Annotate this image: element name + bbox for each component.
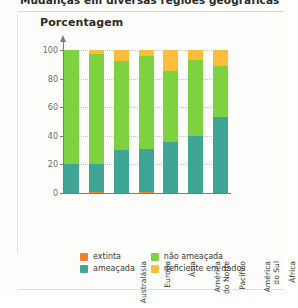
bar-segment <box>163 71 178 141</box>
bar-segment <box>188 50 203 60</box>
bar-segment <box>139 149 154 192</box>
x-axis-label-1: Australásia <box>140 261 149 308</box>
bar-segment <box>114 50 129 61</box>
x-axis-label-5: Pacífico <box>239 261 248 308</box>
legend-swatch <box>80 253 88 261</box>
legend-swatch <box>80 265 88 273</box>
legend-item[interactable]: ameaçada <box>80 264 135 273</box>
y-tick-label: 80 <box>48 74 58 83</box>
bar-segment <box>114 61 129 150</box>
x-axis-label-4: América do Norte <box>214 261 231 308</box>
legend-label: extinta <box>93 252 121 261</box>
y-axis-label: Porcentagem <box>40 16 123 29</box>
y-axis-arrow-icon <box>60 35 66 42</box>
bar-segment <box>213 50 228 66</box>
bar-2[interactable] <box>89 50 104 193</box>
bar-3[interactable] <box>114 50 129 193</box>
y-tick-label: 0 <box>53 189 58 198</box>
figure-title-text: Mudanças em diversas regiões geográficas <box>20 0 279 6</box>
bar-segment <box>89 54 104 164</box>
legend-swatch <box>151 265 159 273</box>
plot-area: 020406080100 <box>64 50 228 193</box>
bar-segment <box>114 150 129 193</box>
bar-segment <box>64 164 79 193</box>
bar-segment <box>188 136 203 193</box>
y-tick-mark <box>60 193 64 194</box>
legend-label: deficiente em dados <box>164 264 246 273</box>
x-axis-line <box>63 193 231 194</box>
bar-segment <box>89 192 104 193</box>
bar-segment <box>89 164 104 191</box>
legend-item[interactable]: extinta <box>80 252 135 261</box>
bar-6[interactable] <box>188 50 203 193</box>
legend-item[interactable]: não ameaçada <box>151 252 246 261</box>
bar-segment <box>64 50 79 164</box>
bar-segment <box>139 192 154 193</box>
legend-swatch <box>151 253 159 261</box>
legend-label: não ameaçada <box>164 252 223 261</box>
x-axis-label-2: Europa <box>164 261 173 308</box>
photo-credit: Paula Hayden Radi <box>0 14 12 134</box>
x-axis-label-7: África <box>289 261 298 308</box>
legend-label: ameaçada <box>93 264 135 273</box>
bar-segment <box>188 60 203 136</box>
bar-segment <box>139 56 154 149</box>
y-tick-label: 20 <box>48 160 58 169</box>
y-tick-label: 100 <box>43 46 58 55</box>
x-axis-label-6: América do Sul <box>264 261 281 308</box>
bar-segment <box>163 142 178 193</box>
y-tick-label: 40 <box>48 131 58 140</box>
bar-segment <box>213 117 228 193</box>
bar-segment <box>213 66 228 117</box>
bar-1[interactable] <box>64 50 79 193</box>
y-tick-label: 60 <box>48 103 58 112</box>
left-divider <box>17 12 18 254</box>
bar-segment <box>163 50 178 71</box>
title-divider <box>18 11 284 12</box>
figure-title-clipped: Mudanças em diversas regiões geográficas <box>18 0 284 11</box>
bar-4[interactable] <box>139 50 154 193</box>
bar-7[interactable] <box>213 50 228 193</box>
bar-5[interactable] <box>163 50 178 193</box>
x-axis-label-3: Ásia <box>189 261 198 308</box>
